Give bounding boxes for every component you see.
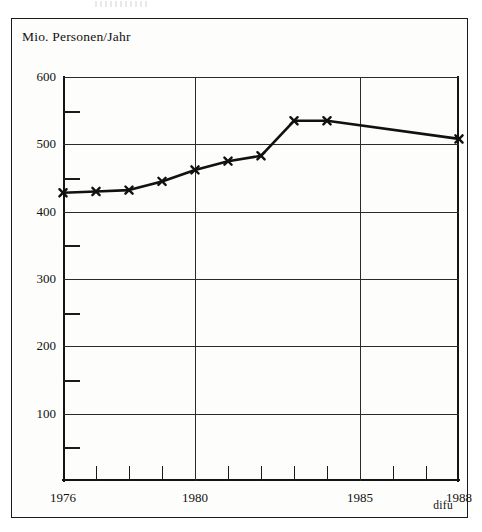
y-tick-label-100: 100 [37, 406, 57, 422]
data-point-markers [59, 117, 462, 196]
x-tick-label-1985: 1985 [347, 490, 373, 506]
source-credit: difu [433, 499, 453, 511]
y-tick-label-500: 500 [37, 136, 57, 152]
plot-area: 100200300400500600 1976198019851988 [63, 77, 459, 481]
y-tick-label-400: 400 [37, 204, 57, 220]
y-tick-label-200: 200 [37, 338, 57, 354]
data-series-line [63, 77, 459, 481]
chart-figure-frame: Mio. Personen/Jahr 100200300400500600 19… [11, 18, 468, 518]
x-tick-label-1976: 1976 [50, 490, 76, 506]
y-tick-label-600: 600 [37, 69, 57, 85]
y-tick-label-300: 300 [37, 271, 57, 287]
x-tick-label-1980: 1980 [182, 490, 208, 506]
y-axis-title: Mio. Personen/Jahr [22, 29, 131, 45]
scan-artifact [95, 1, 150, 7]
